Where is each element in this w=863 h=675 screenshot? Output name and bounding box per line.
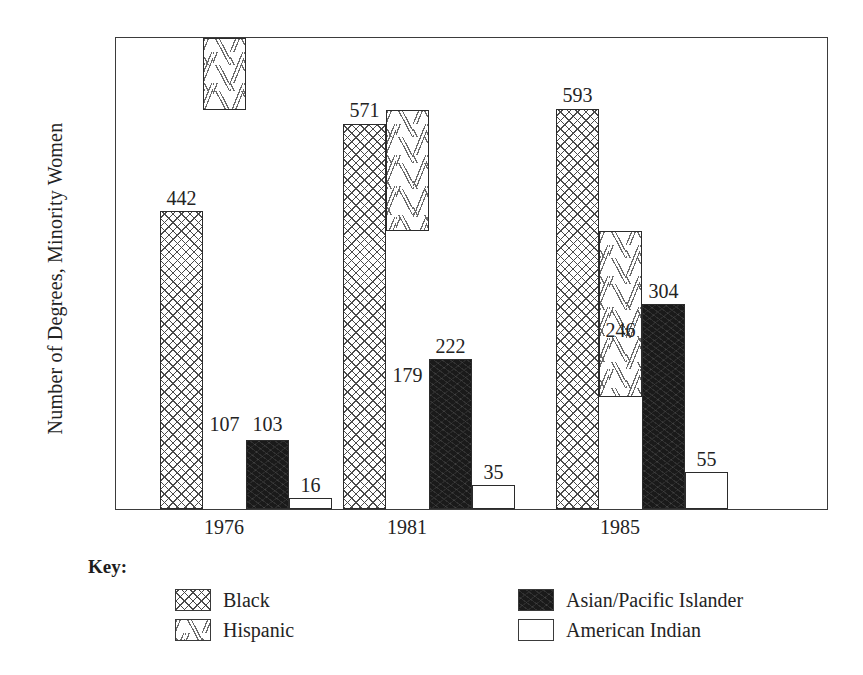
- legend-label-hispanic: Hispanic: [223, 618, 294, 642]
- bar-1981-asian[interactable]: [429, 359, 472, 509]
- legend-label-black: Black: [223, 588, 270, 612]
- x-tick-label-1981: 1981: [337, 517, 477, 537]
- bar-label-1976-black: 442: [140, 188, 223, 208]
- bar-label-1981-asian: 222: [409, 336, 492, 356]
- bar-label-1985-indian: 55: [665, 449, 748, 469]
- white-swatch-icon: [518, 619, 554, 641]
- bar-1985-hispanic[interactable]: [599, 231, 642, 397]
- bar-label-1985-asian: 304: [622, 281, 705, 301]
- bar-1976-hispanic[interactable]: [203, 38, 246, 110]
- legend-label-indian: American Indian: [566, 618, 701, 642]
- solid-black-swatch-icon: [518, 589, 554, 611]
- bar-label-1981-indian: 35: [452, 462, 535, 482]
- dashes-swatch-icon: [175, 619, 211, 641]
- bar-chart-figure: Number of Degrees, Minority Women 700 60…: [0, 0, 863, 675]
- bar-label-1985-black: 593: [536, 85, 619, 105]
- plot-area: 442 107 103 16 571 179 222 35 593 246 30…: [115, 37, 828, 510]
- crosshatch-swatch-icon: [175, 589, 211, 611]
- bar-1985-indian[interactable]: [685, 472, 728, 509]
- bar-1981-hispanic[interactable]: [386, 110, 429, 231]
- bar-1981-indian[interactable]: [472, 485, 515, 509]
- legend-title: Key:: [88, 556, 127, 578]
- y-axis-title: Number of Degrees, Minority Women: [44, 69, 67, 489]
- bar-1976-black[interactable]: [160, 211, 203, 509]
- legend: Key: Black Hispanic Asian/Pacific Island…: [0, 556, 863, 666]
- legend-label-asian: Asian/Pacific Islander: [566, 588, 743, 612]
- bar-1976-indian[interactable]: [289, 498, 332, 509]
- bar-label-1976-asian: 103: [226, 414, 309, 434]
- bar-label-1976-indian: 16: [269, 475, 352, 495]
- x-tick-label-1985: 1985: [550, 517, 690, 537]
- bar-1985-black[interactable]: [556, 109, 599, 509]
- bar-1981-black[interactable]: [343, 124, 386, 509]
- x-tick-label-1976: 1976: [154, 517, 294, 537]
- bar-1985-asian[interactable]: [642, 304, 685, 509]
